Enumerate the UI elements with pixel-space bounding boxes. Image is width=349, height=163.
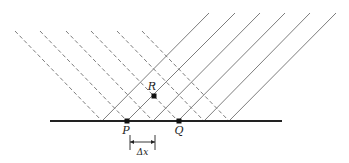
point-r-marker <box>152 94 157 99</box>
reflected-rays-solid <box>102 13 336 121</box>
arrowhead-right-icon <box>151 140 155 144</box>
incident-ray <box>142 31 229 121</box>
points <box>125 94 182 124</box>
point-label-p: P <box>121 124 130 137</box>
incident-ray <box>91 31 178 121</box>
point-label-r: R <box>147 80 156 93</box>
point-label-q: Q <box>174 124 183 137</box>
reflected-ray <box>229 13 336 121</box>
reflected-ray <box>102 13 209 121</box>
reflected-ray <box>204 13 310 121</box>
arrowhead-left-icon <box>130 140 134 144</box>
ray-reflection-diagram: Δx P Q R <box>0 0 349 163</box>
incident-ray <box>40 31 127 121</box>
reflected-ray <box>178 13 285 121</box>
point-q-marker <box>177 119 182 124</box>
reflected-ray <box>153 13 260 121</box>
incident-ray <box>15 31 102 121</box>
incident-rays-dashed <box>15 31 229 121</box>
reflected-ray <box>127 13 235 121</box>
delta-x-label: Δx <box>136 147 149 157</box>
point-p-marker <box>125 119 130 124</box>
